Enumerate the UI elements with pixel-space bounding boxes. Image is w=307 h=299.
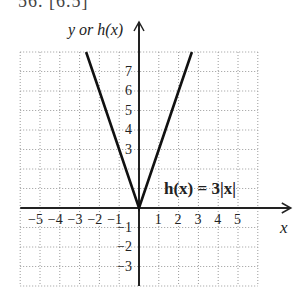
x-tick-label: 1 <box>155 213 162 227</box>
x-tick-label: −2 <box>87 213 102 227</box>
y-tick-label: 7 <box>125 65 132 79</box>
function-label: h(x) = 3|x| <box>164 180 236 197</box>
y-tick-label: −2 <box>117 240 132 254</box>
y-tick-label: 4 <box>125 123 132 137</box>
x-axis-label: x <box>280 219 288 236</box>
y-tick-label: 6 <box>125 84 132 98</box>
y-tick-label: 3 <box>125 143 132 157</box>
y-tick-label: −1 <box>117 221 132 235</box>
x-tick-label: 3 <box>194 213 201 227</box>
graph-canvas <box>0 0 307 299</box>
y-axis-label: y or h(x) <box>68 22 123 38</box>
y-tick-label: −3 <box>117 260 132 274</box>
x-tick-label: 2 <box>175 213 182 227</box>
x-tick-label: −5 <box>28 213 43 227</box>
x-tick-label: −3 <box>68 213 83 227</box>
x-tick-label: 4 <box>214 213 221 227</box>
x-tick-label: 5 <box>234 213 241 227</box>
y-tick-label: 5 <box>125 104 132 118</box>
axes <box>20 22 291 286</box>
x-tick-label: −4 <box>48 213 63 227</box>
